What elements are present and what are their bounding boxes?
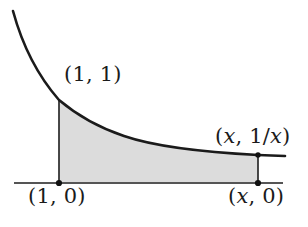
- paren-close: ): [276, 184, 284, 208]
- coord-y: 0: [64, 184, 78, 208]
- coord-x: x: [223, 124, 235, 148]
- fraction-numerator: 1: [249, 124, 263, 148]
- point-label-1-0: (1, 0): [28, 186, 86, 207]
- coord-x: 1: [36, 184, 50, 208]
- paren-close: ): [113, 62, 121, 86]
- paren-close: ): [282, 124, 290, 148]
- point-label-x-1-over-x: (x, 1/x): [215, 126, 291, 147]
- point-label-x-0: (x, 0): [228, 186, 284, 207]
- coord-comma: ,: [235, 124, 249, 148]
- coord-x: 1: [72, 62, 86, 86]
- figure-container: (1, 1) (x, 1/x) (1, 0) (x, 0): [0, 0, 308, 227]
- marker-dot-x-inv-x: [255, 152, 260, 157]
- point-label-1-1: (1, 1): [64, 64, 122, 85]
- coord-y: 1: [100, 62, 114, 86]
- coord-comma: ,: [248, 184, 262, 208]
- fraction-slash: /: [263, 124, 270, 148]
- coord-y: 0: [262, 184, 276, 208]
- paren-close: ): [77, 184, 85, 208]
- fraction-denominator: x: [270, 124, 282, 148]
- coord-x: x: [236, 184, 248, 208]
- coord-comma: ,: [86, 62, 100, 86]
- coord-comma: ,: [50, 184, 64, 208]
